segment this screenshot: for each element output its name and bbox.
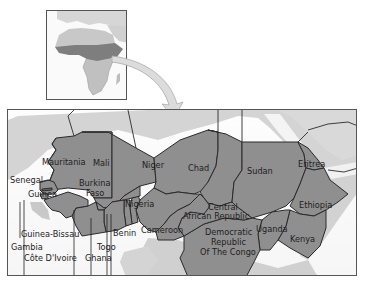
label-chad: Chad bbox=[188, 163, 209, 173]
label-sudan: Sudan bbox=[247, 166, 273, 176]
label-of-the-congo: Of The Congo bbox=[200, 247, 256, 257]
label-african-republic: African Republic bbox=[183, 211, 249, 221]
label-uganda: Uganda bbox=[256, 224, 288, 234]
label-democratic: Democratic bbox=[205, 227, 252, 237]
label-cameroon: Cameroon bbox=[141, 225, 183, 235]
label-burkina: Burkina bbox=[79, 178, 110, 188]
label-mali: Mali bbox=[93, 158, 110, 168]
label-ghana: Ghana bbox=[85, 253, 112, 263]
label-niger: Niger bbox=[142, 160, 165, 170]
label-eritrea: Eritrea bbox=[298, 159, 325, 169]
label-faso: Faso bbox=[86, 188, 104, 198]
africa-outline-graphic bbox=[47, 11, 127, 100]
label-kenya: Kenya bbox=[290, 234, 315, 244]
inset-locator-map bbox=[46, 10, 127, 100]
label-senegal: Senegal bbox=[10, 175, 43, 185]
label-gambia: Gambia bbox=[11, 242, 43, 252]
map-canvas: Mauritania Mali Niger Chad Sudan Eritrea… bbox=[8, 110, 357, 276]
label-benin: Benin bbox=[113, 228, 136, 238]
label-ethiopia: Ethiopia bbox=[299, 200, 332, 210]
label-republic: Republic bbox=[211, 237, 246, 247]
label-guinea-bissau: Guinea-Bissau bbox=[21, 229, 79, 239]
main-map: Mauritania Mali Niger Chad Sudan Eritrea… bbox=[7, 109, 357, 276]
label-mauritania: Mauritania bbox=[42, 157, 86, 167]
label-togo: Togo bbox=[96, 242, 116, 252]
label-nigeria: Nigeria bbox=[125, 199, 154, 209]
label-cote-divoire: Côte D'Ivoire bbox=[24, 253, 77, 263]
label-guinea: Guinea bbox=[28, 189, 57, 199]
